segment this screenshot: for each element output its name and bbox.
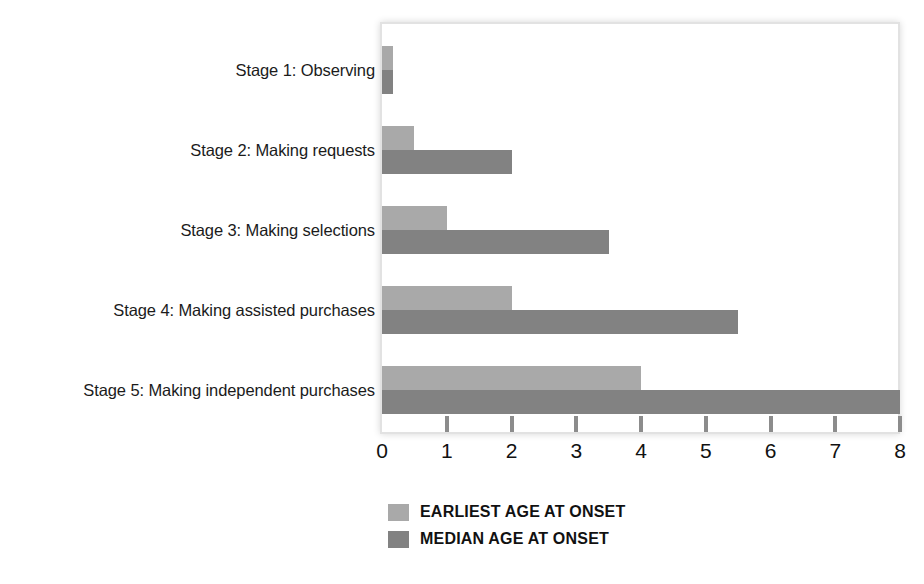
- bar-earliest-cat-1: [382, 46, 393, 70]
- bar-earliest-cat-2: [382, 126, 414, 150]
- bar-median-cat-2: [382, 150, 512, 174]
- legend-item-earliest: EARLIEST AGE AT ONSET: [388, 500, 625, 524]
- category-label-stage-3: Stage 3: Making selections: [15, 222, 375, 239]
- chart-figure: Stage 1: Observing Stage 2: Making reque…: [0, 0, 924, 584]
- bar-median-cat-5: [382, 390, 900, 414]
- x-tick-label-1: 1: [427, 440, 467, 461]
- bar-earliest-cat-5: [382, 366, 641, 390]
- x-tick-6: [769, 416, 773, 432]
- category-label-stage-2: Stage 2: Making requests: [15, 142, 375, 159]
- x-tick-label-2: 2: [492, 440, 532, 461]
- x-tick-label-4: 4: [621, 440, 661, 461]
- x-tick-label-8: 8: [880, 440, 920, 461]
- x-tick-label-3: 3: [556, 440, 596, 461]
- bar-median-cat-3: [382, 230, 609, 254]
- legend-swatch-earliest-icon: [388, 504, 409, 521]
- plot-bars-container: [382, 24, 900, 432]
- x-tick-5: [704, 416, 708, 432]
- category-label-stage-1: Stage 1: Observing: [15, 62, 375, 79]
- legend-label-earliest: EARLIEST AGE AT ONSET: [420, 504, 625, 520]
- legend-label-median: MEDIAN AGE AT ONSET: [420, 531, 609, 547]
- plot-area: [380, 22, 900, 434]
- x-axis: 012345678: [380, 434, 900, 484]
- bar-median-cat-1: [382, 70, 393, 94]
- x-tick-label-0: 0: [362, 440, 402, 461]
- legend-item-median: MEDIAN AGE AT ONSET: [388, 527, 625, 551]
- legend-swatch-median-icon: [388, 531, 409, 548]
- x-tick-2: [510, 416, 514, 432]
- category-label-stage-4: Stage 4: Making assisted purchases: [15, 302, 375, 319]
- bar-median-cat-4: [382, 310, 738, 334]
- bar-earliest-cat-3: [382, 206, 447, 230]
- x-tick-3: [574, 416, 578, 432]
- x-tick-label-6: 6: [751, 440, 791, 461]
- x-tick-1: [445, 416, 449, 432]
- x-tick-8: [898, 416, 902, 432]
- bar-earliest-cat-4: [382, 286, 512, 310]
- x-tick-7: [833, 416, 837, 432]
- x-tick-4: [639, 416, 643, 432]
- chart-legend: EARLIEST AGE AT ONSET MEDIAN AGE AT ONSE…: [388, 500, 625, 554]
- x-tick-label-7: 7: [815, 440, 855, 461]
- category-label-stage-5: Stage 5: Making independent purchases: [15, 382, 375, 399]
- x-tick-label-5: 5: [686, 440, 726, 461]
